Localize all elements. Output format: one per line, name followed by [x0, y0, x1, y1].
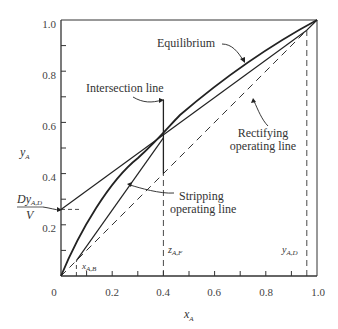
svg-text:0.4: 0.4: [42, 171, 56, 183]
stripping-label-1: Stripping: [179, 189, 224, 203]
x-axis-ticks: [87, 271, 292, 276]
svg-text:0.2: 0.2: [42, 222, 56, 234]
stripping-arrow: [130, 185, 174, 193]
svg-text:0.2: 0.2: [105, 286, 119, 298]
intersection-arrow: [133, 97, 162, 102]
zaf-label: zA,F: [167, 244, 183, 257]
svg-text:1.0: 1.0: [311, 286, 325, 298]
x-axis-title: xA: [183, 307, 194, 323]
rectifying-arrow: [254, 101, 268, 126]
svg-text:0.6: 0.6: [207, 286, 221, 298]
svg-text:0.6: 0.6: [42, 120, 56, 132]
equilibrium-arrow: [222, 44, 243, 60]
svg-text:1.0: 1.0: [42, 18, 56, 30]
svg-text:0.8: 0.8: [42, 69, 56, 81]
rectifying-operating-line: [61, 30, 307, 209]
equilibrium-label: Equilibrium: [157, 36, 216, 50]
svg-text:0.4: 0.4: [156, 286, 170, 298]
y-axis-ticks: [61, 46, 66, 251]
rectifying-label-1: Rectifying: [238, 126, 289, 140]
svg-text:V: V: [26, 208, 35, 222]
y-axis-title: yA: [19, 145, 30, 161]
yad-label: yA,D: [281, 244, 298, 257]
xab-label: xA,B: [81, 261, 97, 273]
annotation-arrows: [43, 44, 268, 210]
rectifying-label-2: operating line: [230, 139, 296, 153]
x-tick-labels: 0 0.2 0.4 0.6 0.8 1.0: [51, 286, 325, 298]
svg-text:DyA,D: DyA,D: [16, 192, 42, 207]
stripping-label-2: operating line: [170, 202, 236, 216]
svg-text:0.8: 0.8: [259, 286, 273, 298]
mccabe-thiele-diagram: 1.0 0.8 0.6 0.4 0.2 0 0.2 0.4 0.6 0.8 1.…: [0, 0, 338, 329]
intercept-label: DyA,D V: [16, 192, 43, 222]
y-tick-labels: 1.0 0.8 0.6 0.4 0.2: [42, 18, 56, 234]
stripping-operating-line: [76, 138, 163, 261]
intersection-line-label: Intersection line: [86, 81, 164, 95]
svg-text:0: 0: [51, 286, 57, 298]
